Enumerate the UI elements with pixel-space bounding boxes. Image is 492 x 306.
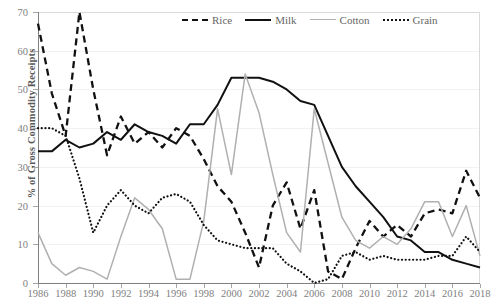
y-tick-label: 40 (8, 123, 28, 134)
x-axis-line (38, 283, 480, 284)
legend-label: Cotton (340, 14, 370, 26)
legend-item-milk[interactable]: Milk (245, 14, 296, 26)
series-lines (38, 12, 480, 283)
y-tick-label: 20 (8, 200, 28, 211)
x-tick-label: 2018 (463, 288, 492, 299)
y-tick-label: 60 (8, 45, 28, 56)
plot-area (38, 12, 480, 283)
legend-label: Rice (212, 14, 232, 26)
y-tick-label: 50 (8, 84, 28, 95)
y-tick-label: 70 (8, 7, 28, 18)
legend-item-cotton[interactable]: Cotton (310, 14, 370, 26)
legend-item-grain[interactable]: Grain (383, 14, 438, 26)
y-tick-label: 0 (8, 278, 28, 289)
series-line-milk (38, 78, 480, 268)
series-line-rice (38, 12, 480, 279)
y-tick-label: 10 (8, 239, 28, 250)
legend-item-rice[interactable]: Rice (182, 14, 232, 26)
series-line-grain (38, 128, 480, 283)
legend-label: Grain (413, 14, 438, 26)
line-chart: % of Gross Commodity Receipts 0102030405… (0, 0, 492, 306)
y-tick-label: 30 (8, 161, 28, 172)
legend-label: Milk (275, 14, 296, 26)
legend: Rice Milk Cotton Grain (182, 14, 438, 26)
